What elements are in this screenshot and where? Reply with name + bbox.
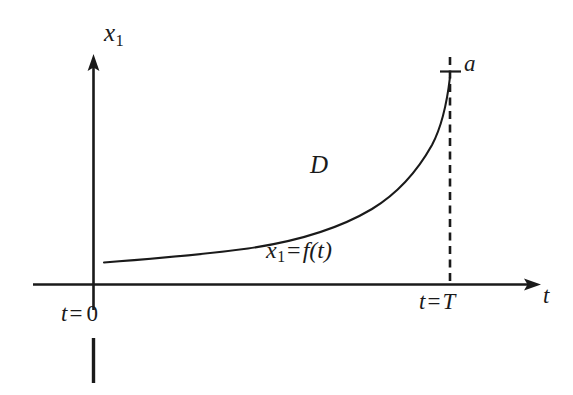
curve-equation-label: x1=f(t) [266,238,332,265]
t-equals-T-label: t=T [419,290,455,313]
vertical-axis-label-subscript: 1 [115,31,124,50]
diagram-canvas [0,0,573,395]
horizontal-axis-label: t [543,284,549,307]
origin-label: t=0 [61,302,100,325]
vertical-axis-label-var: x [104,19,115,46]
curve-equation-lhs-subscript: 1 [277,248,285,265]
t-equals-T-label-operator: = [425,289,442,314]
vertical-axis-label: x1 [104,20,124,49]
origin-label-value: 0 [84,301,100,326]
figure-container: x1 a D x1=f(t) t=0 t=T t [0,0,573,395]
function-curve [104,77,450,263]
horizontal-axis [33,279,541,291]
vertical-axis [88,54,100,310]
curve-equation-operator: = [285,237,303,263]
region-label-D: D [310,152,328,177]
t-equals-T-label-value: T [442,289,455,314]
curve-equation-rhs: f(t) [303,237,332,263]
origin-label-operator: = [67,301,84,326]
terminal-value-label: a [464,52,476,75]
curve-equation-lhs: x [266,237,277,263]
